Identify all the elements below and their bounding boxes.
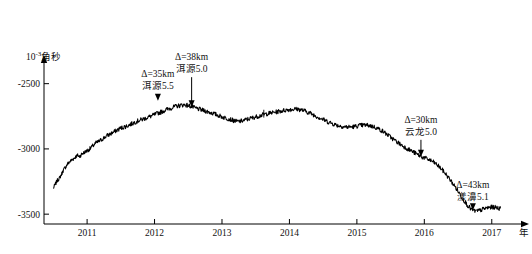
annot-yunlong-50-line1: Δ=30km [404,115,438,125]
annot-eryuan-50-line1: Δ=38km [175,52,209,62]
y-axis-tick-2: -3500 [18,210,40,220]
annotation-layer: Δ=38km洱源5.0Δ=35km洱源5.5Δ=30km云龙5.0Δ=43km漾… [141,52,490,210]
chart-canvas: -2500-3000-35002011201220132014201520162… [0,0,532,254]
x-axis-tick-2: 2013 [212,228,231,238]
annot-yunlong-50-line2: 云龙5.0 [405,126,437,137]
x-axis-tick-1: 2012 [145,228,164,238]
annot-yangbi-51: Δ=43km漾濞5.1 [456,180,490,210]
y-axis-unit: 10-3角秒 [26,50,61,62]
x-axis-tick-5: 2016 [415,228,434,238]
annot-eryuan-55-line2: 洱源5.5 [142,81,174,91]
y-axis-tick-0: -2500 [18,79,40,89]
x-axis-tick-4: 2015 [347,228,366,238]
annot-eryuan-55-arrow-head [155,94,161,101]
x-axis-tick-0: 2011 [78,228,97,238]
annot-eryuan-50: Δ=38km洱源5.0 [175,52,209,107]
x-axis-tick-6: 2017 [482,228,501,238]
annot-yangbi-51-line1: Δ=43km [456,180,490,190]
annot-eryuan-55-line1: Δ=35km [141,69,175,79]
tilt-time-series-chart: -2500-3000-35002011201220132014201520162… [0,0,532,254]
y-axis-tick-1: -3000 [18,144,40,154]
x-axis-unit: 年 [519,227,529,238]
x-axis-tick-3: 2014 [280,228,299,238]
annot-eryuan-50-line2: 洱源5.0 [176,64,208,74]
annot-yangbi-51-line2: 漾濞5.1 [457,191,489,202]
annot-eryuan-55: Δ=35km洱源5.5 [141,69,175,100]
